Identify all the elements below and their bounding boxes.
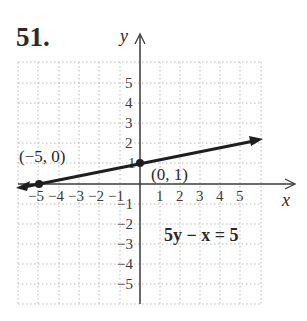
svg-text:−3: −3 <box>68 188 84 204</box>
svg-text:1: 1 <box>156 188 164 204</box>
svg-text:−4: −4 <box>48 188 64 204</box>
svg-text:−2: −2 <box>88 188 104 204</box>
svg-text:2: 2 <box>176 188 184 204</box>
point-label-neg5-0: (−5, 0) <box>19 147 65 166</box>
svg-text:1: 1 <box>128 155 136 171</box>
equation-label: 5y − x = 5 <box>164 225 239 245</box>
svg-text:2: 2 <box>125 135 133 151</box>
svg-text:−2: −2 <box>117 216 133 232</box>
svg-text:3: 3 <box>125 115 133 131</box>
y-axis-label: y <box>118 26 128 46</box>
x-axis-label: x <box>281 190 290 210</box>
coordinate-plane: y x −5 −4 −3 −2 −1 1 2 3 4 5 5 4 3 2 1 −… <box>0 0 307 321</box>
point-neg5-0 <box>35 180 43 188</box>
x-tick-labels: −5 −4 −3 −2 −1 1 2 3 4 5 <box>28 188 244 204</box>
point-0-1 <box>136 159 144 167</box>
svg-text:−4: −4 <box>117 256 133 272</box>
point-label-0-1: (0, 1) <box>151 165 188 184</box>
svg-text:5: 5 <box>236 188 244 204</box>
svg-text:−5: −5 <box>28 188 44 204</box>
svg-text:−5: −5 <box>117 276 133 292</box>
svg-text:4: 4 <box>216 188 224 204</box>
svg-text:−3: −3 <box>117 236 133 252</box>
svg-text:4: 4 <box>125 95 133 111</box>
line-arrow-right-icon <box>249 136 263 146</box>
svg-text:3: 3 <box>196 188 204 204</box>
svg-text:−1: −1 <box>117 196 133 212</box>
svg-text:5: 5 <box>125 75 133 91</box>
